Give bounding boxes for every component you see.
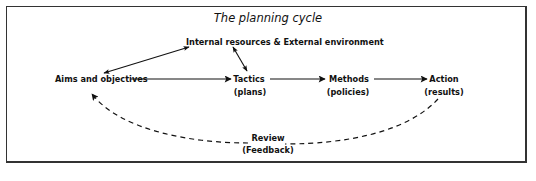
node-action-sub: (results)	[424, 87, 464, 97]
node-methods: Methods	[329, 74, 369, 84]
node-tactics: Tactics	[233, 74, 264, 84]
diagram-title: The planning cycle	[214, 11, 322, 25]
node-environment: Internal resources & External environmen…	[186, 37, 384, 47]
node-action: Action	[429, 74, 459, 84]
edge-review-aims	[92, 94, 248, 143]
node-review: Review	[251, 133, 285, 143]
node-methods-sub: (policies)	[327, 87, 370, 97]
planning-cycle-diagram: The planning cycle Internal resources & …	[0, 0, 536, 181]
edge-aims-environment	[104, 47, 189, 73]
node-review-sub: (Feedback)	[242, 145, 294, 155]
edge-action-review	[285, 99, 438, 144]
edge-environment-tactics	[233, 47, 247, 71]
node-tactics-sub: (plans)	[234, 87, 267, 97]
